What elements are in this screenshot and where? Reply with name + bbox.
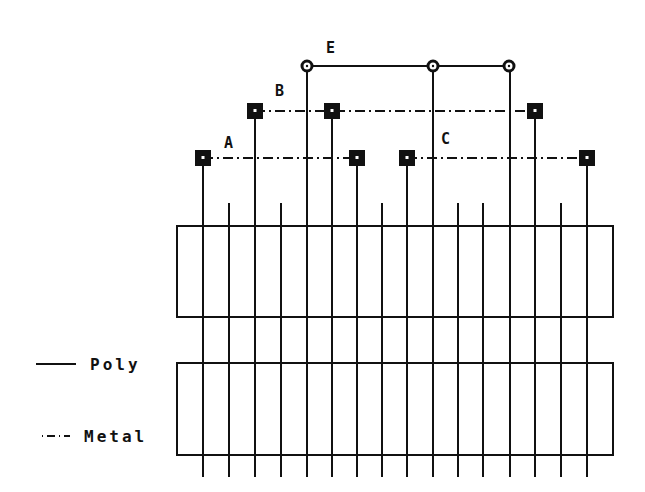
via-dot (432, 65, 434, 67)
legend: Poly Metal (36, 355, 147, 446)
contact-hole (356, 156, 359, 159)
poly-columns (203, 66, 587, 477)
net-label-b: B (275, 82, 284, 100)
contact-hole (331, 109, 334, 112)
net-label-c: C (441, 130, 450, 148)
net-label-a: A (224, 134, 233, 152)
contact-hole (254, 109, 257, 112)
contact-hole (534, 109, 537, 112)
via-dot (508, 65, 510, 67)
legend-metal-label: Metal (84, 427, 147, 446)
via-dot (306, 65, 308, 67)
diffusion-rect (177, 363, 613, 455)
contact-hole (406, 156, 409, 159)
diffusion-rect (177, 226, 613, 317)
legend-poly-label: Poly (90, 355, 141, 374)
contact-hole (586, 156, 589, 159)
routing-diagram: E B A C Poly Metal (0, 0, 645, 492)
diffusion-regions (177, 226, 613, 455)
net-label-e: E (326, 39, 335, 57)
contact-hole (202, 156, 205, 159)
